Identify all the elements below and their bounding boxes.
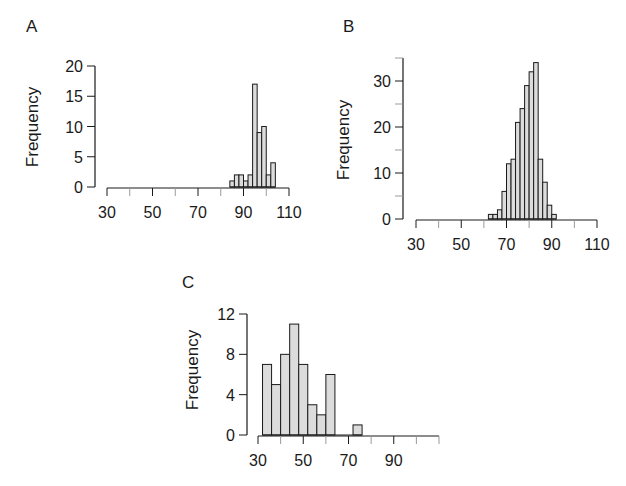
y-tick-label: 12	[217, 306, 235, 323]
histogram-bar	[488, 214, 493, 219]
y-tick-label: 8	[226, 346, 235, 363]
y-tick-label: 15	[65, 88, 83, 105]
histogram-bar	[511, 159, 516, 219]
x-tick-label: 90	[385, 452, 403, 469]
histogram-bar	[497, 210, 502, 219]
y-axis-title-a: Frequency	[23, 86, 42, 167]
y-tick-label: 30	[373, 73, 391, 90]
histogram-bar	[317, 415, 326, 435]
histogram-bar	[257, 133, 262, 187]
histogram-b-axes: 305070901100102030	[373, 58, 610, 253]
x-tick-label: 30	[249, 452, 267, 469]
histogram-bar	[253, 84, 258, 187]
y-axis-title-b: Frequency	[334, 99, 353, 180]
histogram-bar	[516, 122, 521, 219]
histogram-bar	[507, 164, 512, 219]
histogram-panel-b: B 305070901100102030 Frequency	[334, 17, 610, 253]
x-tick-label: 110	[276, 204, 302, 221]
histogram-bar	[547, 205, 552, 219]
x-tick-label: 90	[543, 236, 561, 253]
y-tick-label: 0	[226, 427, 235, 444]
histogram-bar	[239, 175, 244, 187]
histogram-bar	[271, 163, 276, 187]
histogram-bar	[248, 175, 253, 187]
histogram-bar	[538, 159, 543, 219]
x-tick-label: 30	[407, 236, 425, 253]
histogram-bar	[263, 364, 272, 435]
histogram-b-bars	[488, 63, 556, 219]
histogram-figure: A 3050709011005101520 Frequency B 305070…	[0, 0, 626, 486]
histogram-bar	[272, 385, 281, 435]
x-tick-label: 70	[498, 236, 516, 253]
histogram-bar	[290, 324, 299, 435]
y-tick-label: 10	[373, 165, 391, 182]
histogram-bar	[353, 425, 362, 435]
histogram-bar	[230, 181, 235, 187]
histogram-a-bars	[230, 84, 276, 187]
histogram-panel-c: C 3050709004812 Frequency	[182, 273, 439, 469]
histogram-bar	[244, 181, 249, 187]
histogram-bar	[234, 175, 239, 187]
histogram-bar	[520, 109, 525, 219]
panel-label-c: C	[182, 273, 194, 292]
y-tick-label: 0	[74, 179, 83, 196]
histogram-bar	[543, 182, 548, 219]
y-axis-title-c: Frequency	[183, 329, 202, 410]
y-tick-label: 5	[74, 149, 83, 166]
histogram-bar	[493, 214, 498, 219]
histogram-bar	[262, 127, 267, 188]
x-tick-label: 50	[294, 452, 312, 469]
x-tick-label: 90	[235, 204, 253, 221]
histogram-bar	[529, 72, 534, 219]
histogram-bar	[552, 214, 557, 219]
x-tick-label: 30	[98, 204, 116, 221]
x-tick-label: 70	[189, 204, 207, 221]
panel-label-a: A	[26, 17, 38, 36]
x-tick-label: 50	[452, 236, 470, 253]
y-tick-label: 4	[226, 387, 235, 404]
histogram-panel-a: A 3050709011005101520 Frequency	[23, 17, 302, 221]
figure-canvas: A 3050709011005101520 Frequency B 305070…	[0, 0, 626, 486]
panel-label-b: B	[343, 17, 354, 36]
y-tick-label: 10	[65, 119, 83, 136]
histogram-bar	[266, 175, 271, 187]
histogram-bar	[281, 354, 290, 435]
y-tick-label: 0	[382, 211, 391, 228]
histogram-bar	[534, 63, 539, 219]
histogram-bar	[308, 405, 317, 435]
histogram-bar	[299, 364, 308, 435]
y-tick-label: 20	[373, 119, 391, 136]
histogram-bar	[525, 86, 530, 219]
x-tick-label: 70	[340, 452, 358, 469]
y-tick-label: 20	[65, 58, 83, 75]
histogram-bar	[502, 191, 507, 219]
x-tick-label: 110	[584, 236, 610, 253]
histogram-bar	[326, 375, 335, 436]
histogram-c-bars	[263, 324, 363, 435]
x-tick-label: 50	[144, 204, 162, 221]
